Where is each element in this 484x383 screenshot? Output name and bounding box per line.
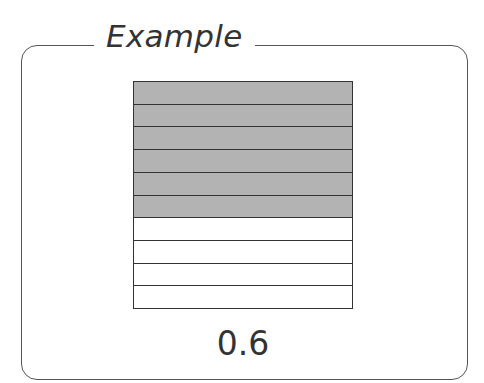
grid-row-empty (134, 264, 352, 287)
grid-row-shaded (134, 173, 352, 196)
fraction-grid (133, 81, 353, 309)
grid-row-shaded (134, 150, 352, 173)
grid-row-empty (134, 241, 352, 264)
grid-row-shaded (134, 82, 352, 105)
grid-row-shaded (134, 196, 352, 219)
grid-row-shaded (134, 127, 352, 150)
decimal-value-label: 0.6 (133, 326, 353, 362)
grid-row-shaded (134, 105, 352, 128)
grid-row-empty (134, 286, 352, 308)
grid-row-empty (134, 218, 352, 241)
example-title: Example (94, 14, 255, 58)
